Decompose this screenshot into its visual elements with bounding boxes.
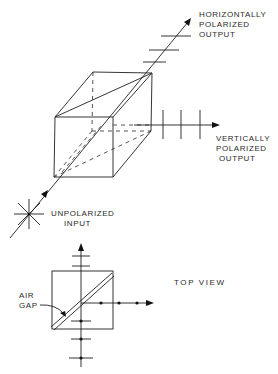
cube-edge-bottom-right [113, 131, 151, 177]
air-gap-label-1: AIR [19, 291, 34, 300]
input-label-1: UNPOLARIZED [51, 209, 115, 218]
top-view-input-dot [79, 337, 82, 340]
cube-edge-top-left [55, 72, 93, 117]
unpolarized-star-icon [14, 199, 44, 229]
vertical-output-beam [134, 110, 220, 139]
air-gap-label-2: GAP [19, 301, 38, 310]
top-view-reflected-dot [117, 301, 120, 304]
cube-hidden-hypotenuse [54, 131, 151, 177]
beam-line [10, 22, 188, 238]
main-beam [10, 18, 191, 238]
cube-hidden-edge-vertical [92, 72, 93, 131]
vertical-output-label-2: POLARIZED [216, 144, 267, 153]
hidden-beam-segment [62, 125, 102, 172]
top-view-input-dot [79, 319, 82, 322]
top-view-right-arrowhead [146, 300, 154, 306]
vertical-output-label-3: OUTPUT [219, 154, 256, 163]
horizontal-output-arrowhead [184, 18, 191, 26]
top-view-up-arrowhead [78, 243, 84, 251]
cube-edge-top-back [93, 72, 152, 73]
vertical-output-arrowhead [212, 122, 220, 128]
cube-hypotenuse-top [55, 73, 152, 117]
horizontal-output-label-3: OUTPUT [199, 30, 236, 39]
top-view-reflected-dot [135, 301, 138, 304]
top-view-reflected-dot [99, 301, 102, 304]
vertical-output-label-1: VERTICALLY [216, 134, 270, 143]
input-label-2: INPUT [64, 219, 91, 228]
top-view [40, 243, 154, 367]
top-view-label: TOP VIEW [174, 278, 226, 287]
top-view-input-dot [79, 356, 82, 359]
air-gap-line [51, 273, 112, 327]
cube-hidden-edge-bottom-left [54, 131, 92, 177]
horizontal-output-label-1: HORIZONTALLY [199, 10, 266, 19]
prism-diagram: HORIZONTALLY POLARIZED OUTPUT VERTICALLY… [0, 0, 278, 374]
horizontal-output-label-2: POLARIZED [199, 20, 250, 29]
cube-edge-back-right [151, 73, 152, 131]
cube-edge-top-right [113, 73, 152, 117]
